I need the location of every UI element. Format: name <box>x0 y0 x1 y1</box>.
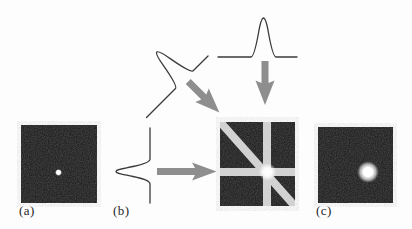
panel-c-blurred-point <box>318 127 393 203</box>
panel-c-label: (c) <box>316 203 332 219</box>
lsf-diagonal-curve <box>119 28 208 117</box>
panel-c-noise-texture <box>318 127 393 203</box>
lsf-left <box>116 128 217 203</box>
blurred-spot <box>357 161 379 183</box>
figure-canvas <box>0 0 412 229</box>
panel-b-smeared-square <box>218 120 297 209</box>
lsf-left-curve <box>116 128 150 203</box>
figure-psf-diagram: (a) (b) (c) <box>0 0 412 229</box>
point-source-dot-core <box>56 170 61 175</box>
lsf-left-arrow <box>157 163 217 181</box>
panel-a-noise-texture <box>21 125 97 203</box>
lsf-diagonal-arrow <box>182 75 227 120</box>
panel-a-point-source <box>21 125 97 203</box>
panel-b-label: (b) <box>113 203 130 219</box>
smear-line-horizontal <box>220 168 295 176</box>
lsf-top-arrow <box>256 61 275 105</box>
lsf-top-curve <box>218 18 297 57</box>
smear-intersection-hotspot <box>259 163 277 181</box>
panel-a-label: (a) <box>19 203 35 219</box>
lsf-top <box>218 18 297 105</box>
